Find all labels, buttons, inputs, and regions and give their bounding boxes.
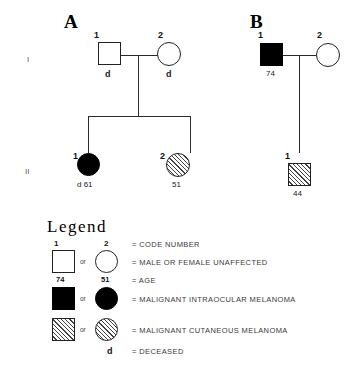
symbol-b-ii-1-male-cutaneous-melanoma [288,163,311,186]
mating-line-a-i [120,55,158,56]
pedigree-b-letter: B [250,12,264,31]
legend-or-cutaneous: or [80,327,86,334]
descent-line-a [138,55,139,116]
pedigree-a-letter: A [64,12,79,31]
code-number-a-ii-2: 2 [160,152,165,161]
symbol-a-i-2-female-unaffected [157,42,181,66]
legend-symbol-female-cutaneous-melanoma [95,318,118,341]
sibling-drop-line-a-ii-1 [88,116,89,153]
caption-a-i-1: d [105,70,111,79]
caption-b-i-1: 74 [266,70,275,78]
legend-row-age-text: = AGE [132,277,156,285]
legend-title: Legend [47,218,107,235]
pedigree-figure: I II A 1 d 2 d 1 d 61 2 51 B 1 74 2 1 44… [0,0,362,368]
deceased-marker-a-i-2: d [166,69,172,79]
caption-a-ii-2: 51 [172,181,181,189]
legend-code-number-example-female: 2 [104,240,108,248]
legend-age-example-male: 74 [56,276,64,284]
legend-symbol-female-intraocular-melanoma [95,287,118,310]
legend-row-code-number-text: = CODE NUMBER [132,241,200,249]
symbol-a-ii-2-female-cutaneous-melanoma [166,153,190,177]
code-number-a-i-2: 2 [158,31,163,40]
legend-or-intraocular: or [80,296,86,303]
code-number-b-i-1: 1 [258,31,263,40]
sibling-drop-line-a-ii-2 [190,116,191,153]
sibship-line-a [88,116,190,117]
legend-symbol-male-unaffected [52,250,75,273]
code-number-a-i-1: 1 [94,31,99,40]
caption-b-ii-1: 44 [293,190,302,198]
legend-row-unaffected-text: = MALE OR FEMALE UNAFFECTED [132,259,268,267]
code-number-b-i-2: 2 [317,31,322,40]
descent-line-b [299,55,300,153]
legend-symbol-male-cutaneous-melanoma [52,318,75,341]
symbol-b-i-2-female-unaffected [316,43,340,67]
legend-age-example-female: 51 [101,276,109,284]
legend-symbol-female-unaffected [95,250,118,273]
legend-symbol-male-intraocular-melanoma [52,287,75,310]
legend-row-cutaneous-text: = MALIGNANT CUTANEOUS MELANOMA [132,327,288,335]
deceased-marker-a-i-1: d [105,69,111,79]
generation-label-ii: II [25,168,29,176]
symbol-b-i-1-male-intraocular-melanoma [260,43,283,66]
legend-code-number-example-male: 1 [54,240,58,248]
caption-a-i-2: d [166,70,172,79]
legend-deceased-symbol: d [107,347,113,356]
legend-row-deceased-text: = DECEASED [132,348,184,356]
symbol-a-i-1-male-unaffected [98,42,121,65]
symbol-a-ii-1-female-intraocular-melanoma [77,153,100,176]
legend-or-unaffected: or [80,259,86,266]
legend-row-intraocular-text: = MALIGNANT INTRAOCULAR MELANOMA [132,296,296,304]
code-number-b-ii-1: 1 [285,152,290,161]
caption-a-ii-1: d 61 [77,181,93,189]
generation-label-i: I [27,56,29,64]
